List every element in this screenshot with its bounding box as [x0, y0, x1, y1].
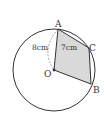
label-b: B	[93, 85, 100, 95]
circle-diagram: A C O B 8cm 7cm	[0, 0, 104, 118]
measure-oa: 8cm	[32, 43, 48, 52]
geometry-figure: A C O B 8cm 7cm	[0, 0, 104, 118]
measure-ac: 7cm	[61, 43, 77, 52]
label-o: O	[44, 69, 51, 79]
label-c: C	[89, 43, 96, 53]
label-a: A	[54, 19, 62, 29]
shaded-region	[54, 29, 91, 84]
center-point	[53, 69, 56, 72]
